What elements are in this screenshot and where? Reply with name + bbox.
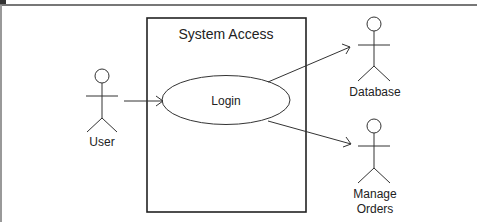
- actor-head-icon: [367, 17, 381, 31]
- actor-user: [86, 69, 118, 132]
- actor-head-icon: [367, 119, 381, 133]
- arrow-user-to-login: [124, 96, 163, 106]
- use-case-label: Login: [211, 94, 240, 108]
- actor-label-database: Database: [349, 85, 401, 99]
- actor-head-icon: [95, 69, 109, 83]
- use-case-login: Login: [162, 76, 290, 125]
- actor-manage-orders: [358, 119, 390, 183]
- arrow-login-to-manage-orders: [268, 121, 351, 147]
- frame-corner: [0, 0, 6, 4]
- arrow-login-to-database: [268, 44, 350, 82]
- diagram-canvas: System Access Login User Database: [0, 0, 477, 222]
- actor-database: [358, 17, 390, 81]
- system-title: System Access: [179, 26, 274, 42]
- system-boundary: System Access: [147, 18, 306, 212]
- actor-label-user: User: [89, 135, 114, 149]
- actor-label-manage: Manage: [353, 187, 397, 201]
- actor-label-orders: Orders: [357, 202, 394, 216]
